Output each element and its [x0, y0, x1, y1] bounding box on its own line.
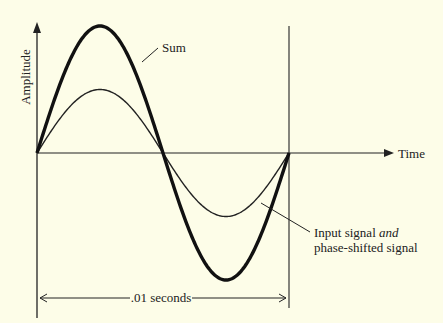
x-axis-arrow-icon: [384, 149, 394, 157]
input-label-line1: Input signal and: [314, 225, 399, 240]
sum-label: Sum: [162, 40, 186, 55]
y-axis-arrow-icon: [33, 22, 41, 33]
x-axis-label: Time: [398, 146, 425, 161]
input-label-line2: phase-shifted signal: [314, 240, 418, 255]
period-label: .01 seconds: [131, 290, 192, 305]
sine-wave-diagram: Amplitude Time Sum Input signal and phas…: [0, 0, 443, 323]
y-axis-label: Amplitude: [18, 49, 33, 105]
sum-leader-line: [142, 48, 158, 62]
